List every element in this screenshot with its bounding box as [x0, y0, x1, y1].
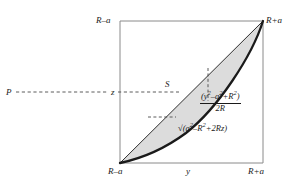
- label-bottom-right: R+a: [248, 167, 264, 176]
- label-bottom-left: R–a: [108, 167, 123, 176]
- num-part-0: (y: [201, 91, 208, 101]
- geometric-diagram: R–a R+a R–a R+a y P z S (y2–a2+R2) 2R √(…: [0, 0, 296, 192]
- label-area-s: S: [165, 80, 170, 89]
- label-height-z: z: [111, 88, 115, 97]
- formula-chord-fraction: (y2–a2+R2) 2R: [200, 92, 241, 114]
- fraction-numerator: (y2–a2+R2): [200, 92, 241, 102]
- num-part-6: ): [237, 91, 240, 101]
- fraction-denominator: 2R: [200, 104, 241, 114]
- diagram-canvas: [0, 0, 296, 192]
- sqrt-part-0: (a: [183, 123, 190, 133]
- num-part-4: +R: [223, 91, 234, 101]
- label-top-right: R+a: [266, 16, 282, 25]
- label-point-p: P: [6, 88, 12, 97]
- sqrt-part-4: +2Rz): [206, 123, 227, 133]
- formula-sqrt-expression: √(a2–R2+2Rz): [178, 124, 227, 133]
- label-x-axis-tick-y: y: [186, 167, 190, 176]
- label-top-left: R–a: [96, 16, 111, 25]
